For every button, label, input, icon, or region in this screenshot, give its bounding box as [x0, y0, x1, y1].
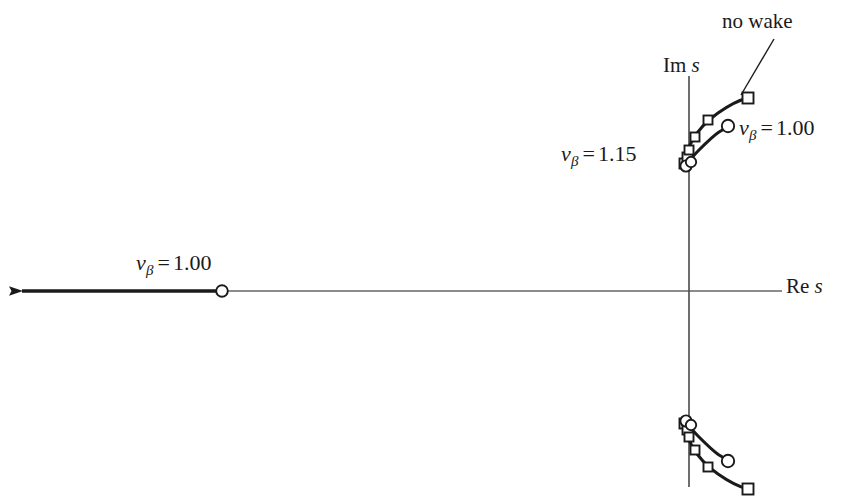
- marker-circle: [686, 420, 696, 430]
- real-axis-label-variable: s: [815, 274, 823, 298]
- beta-subscript: β: [146, 262, 153, 278]
- marker-square: [685, 146, 694, 155]
- marker-square: [704, 463, 713, 472]
- marker-circle: [686, 157, 696, 167]
- nu-beta-value: 1.15: [598, 141, 637, 166]
- nu-beta-value: 1.00: [776, 115, 815, 140]
- nu-symbol: ν: [136, 250, 146, 275]
- beta-subscript: β: [571, 153, 578, 169]
- equals-sign: =: [583, 141, 595, 166]
- annotation-no-wake: no wake: [722, 11, 793, 32]
- real-axis-label-text: Re: [786, 274, 815, 298]
- marker-square: [685, 433, 694, 442]
- series-label-nu-beta-100-real-axis: νβ=1.00: [136, 252, 211, 278]
- imaginary-axis-label: Im s: [663, 55, 700, 76]
- marker-circle: [722, 455, 734, 467]
- marker-circle-real-axis: [216, 285, 228, 297]
- real-axis-label: Re s: [786, 276, 823, 297]
- series-label-nu-beta-115-upper: νβ=1.15: [561, 143, 636, 169]
- root-locus-figure: no wake Im s Re s νβ=1.00 νβ=1.15 νβ=1.0…: [0, 0, 846, 499]
- marker-square: [691, 133, 700, 142]
- figure-canvas: [0, 0, 846, 499]
- marker-circle: [722, 120, 734, 132]
- nu-symbol: ν: [561, 141, 571, 166]
- no-wake-leader-line: [741, 39, 774, 95]
- equals-sign: =: [761, 115, 773, 140]
- nu-beta-value: 1.00: [173, 250, 212, 275]
- nu-symbol: ν: [739, 115, 749, 140]
- imaginary-axis-label-variable: s: [692, 53, 700, 77]
- series-label-nu-beta-100-upper: νβ=1.00: [739, 117, 814, 143]
- marker-square: [691, 446, 700, 455]
- equals-sign: =: [158, 250, 170, 275]
- marker-square: [743, 93, 754, 104]
- beta-subscript: β: [749, 127, 756, 143]
- imaginary-axis-label-text: Im: [663, 53, 692, 77]
- marker-square: [743, 484, 754, 495]
- marker-square: [704, 116, 713, 125]
